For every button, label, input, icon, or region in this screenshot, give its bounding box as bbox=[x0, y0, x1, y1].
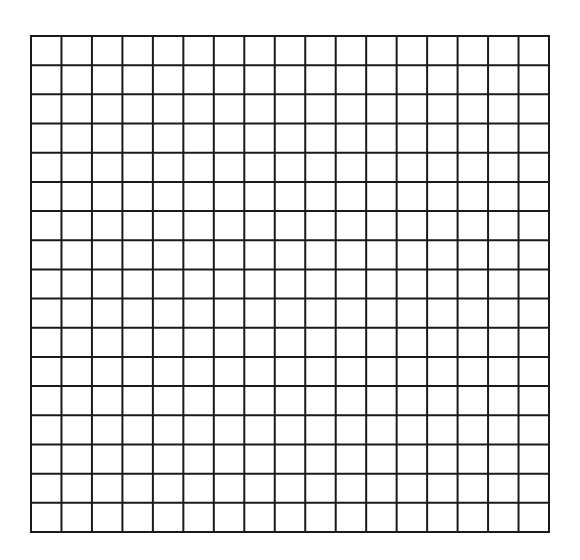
grid-lines bbox=[31, 36, 549, 532]
square-grid bbox=[31, 36, 549, 532]
